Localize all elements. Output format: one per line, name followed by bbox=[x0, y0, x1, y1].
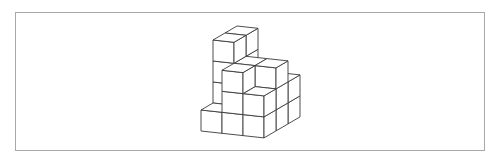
cube-face bbox=[222, 70, 243, 93]
cube-face bbox=[213, 40, 234, 63]
cube-face bbox=[201, 110, 222, 133]
cube-face bbox=[243, 94, 264, 117]
cube-face bbox=[255, 66, 276, 89]
cube-face bbox=[222, 112, 243, 135]
cube-face bbox=[243, 115, 264, 138]
cube-face bbox=[222, 91, 243, 114]
cube-stack-diagram bbox=[0, 0, 499, 162]
